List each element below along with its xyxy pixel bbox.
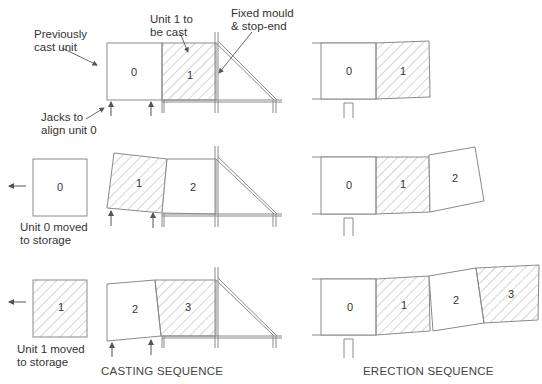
unit-number: 1 [400, 65, 406, 77]
label-line: to storage [20, 234, 71, 246]
leader-fixed-mould [219, 32, 252, 73]
label-unit0-storage: Unit 0 moved to storage [20, 221, 88, 247]
unit-number: 2 [190, 181, 196, 193]
pier [344, 218, 353, 236]
erection-row-2 [312, 147, 484, 236]
label-line: Previously [34, 28, 87, 40]
casting-sequence-title: CASTING SEQUENCE [101, 365, 223, 377]
unit-number: 0 [131, 66, 137, 78]
label-line: align unit 0 [41, 124, 97, 136]
unit-number: 1 [136, 177, 142, 189]
unit-number: 1 [401, 299, 407, 311]
label-line: Unit 1 moved [17, 343, 85, 355]
unit-number: 3 [508, 288, 514, 300]
label-line: Unit 0 moved [20, 221, 88, 233]
label-line: Fixed mould [231, 7, 294, 19]
pier [344, 103, 353, 118]
label-line: Unit 1 to [150, 13, 193, 25]
unit-number: 2 [453, 294, 459, 306]
unit-number: 1 [58, 301, 64, 313]
unit-number: 0 [57, 181, 63, 193]
unit-number: 2 [132, 303, 138, 315]
unit-number: 0 [346, 179, 352, 191]
label-line: be cast [150, 26, 187, 38]
unit-number: 0 [346, 65, 352, 77]
label-previously-cast: Previously cast unit [34, 28, 87, 54]
label-fixed-mould: Fixed mould & stop-end [231, 7, 294, 33]
unit-number: 3 [185, 301, 191, 313]
label-line: Jacks to [41, 111, 83, 123]
label-line: cast unit [34, 41, 77, 53]
casting-row-2 [9, 146, 282, 228]
label-jacks: Jacks to align unit 0 [41, 111, 97, 137]
unit-number: 2 [452, 172, 458, 184]
erection-sequence-title: ERECTION SEQUENCE [363, 365, 494, 377]
unit-number: 0 [347, 301, 353, 313]
diagram-canvas [0, 0, 542, 384]
pier [344, 339, 353, 358]
label-line: to storage [17, 356, 68, 368]
label-unit1-storage: Unit 1 moved to storage [17, 343, 85, 369]
unit-number: 1 [400, 178, 406, 190]
label-unit1-to-be-cast: Unit 1 to be cast [150, 13, 193, 39]
unit-number: 1 [187, 69, 193, 81]
label-line: & stop-end [231, 20, 287, 32]
erection-row-1 [312, 41, 430, 118]
